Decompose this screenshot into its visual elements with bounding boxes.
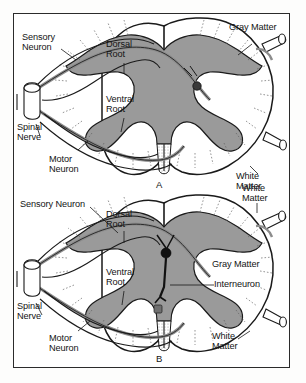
spinal-nerve-stump-b	[17, 259, 40, 296]
label-motor-neuron-a: Motor Neuron	[49, 154, 79, 174]
leader-motor-neuron-b	[78, 321, 90, 331]
label-ventral-root-a: Ventral Root	[106, 94, 134, 114]
panel-letter-a: A	[156, 179, 162, 190]
figure-frame: Sensory Neuron Gray Matter Dorsal Root V…	[13, 13, 290, 368]
label-gray-matter-b: Gray Matter	[212, 259, 259, 269]
label-ventral-root-b: Ventral Root	[106, 267, 134, 287]
leader-sensory-neuron-a	[61, 49, 76, 60]
panel-a: Sensory Neuron Gray Matter Dorsal Root V…	[14, 14, 289, 191]
label-motor-neuron-b: Motor Neuron	[49, 333, 79, 353]
label-gray-matter-a: Gray Matter	[229, 22, 276, 32]
motor-neuron-soma-b	[154, 305, 162, 313]
label-interneuron-b: Interneuron	[214, 279, 260, 289]
label-white-matter-bottom-b: White Matter	[212, 331, 237, 351]
label-dorsal-root-a: Dorsal Root	[106, 39, 132, 59]
spinal-nerve-stump-a	[17, 83, 40, 120]
label-spinal-nerve-a: Spinal Nerve	[17, 122, 42, 142]
sensory-synapse-terminal-a	[193, 82, 201, 90]
label-dorsal-root-b: Dorsal Root	[106, 209, 132, 229]
panel-letter-b: B	[156, 353, 162, 364]
label-sensory-neuron-a: Sensory Neuron	[22, 32, 55, 52]
panel-b: Sensory Neuron White Matter Dorsal Root …	[14, 191, 289, 368]
label-sensory-neuron-b: Sensory Neuron	[20, 199, 85, 209]
label-spinal-nerve-b: Spinal Nerve	[17, 301, 42, 321]
label-white-matter-top-b: White Matter	[242, 183, 267, 203]
interneuron-soma-b	[161, 248, 171, 258]
